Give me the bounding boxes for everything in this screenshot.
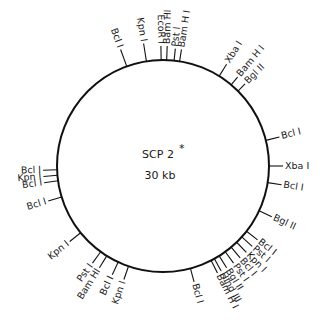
site-tick [99, 256, 106, 268]
site-tick [48, 197, 61, 201]
site-label: Bcl I [190, 282, 206, 304]
site-tick [231, 247, 240, 258]
site-label: Kpn I [135, 17, 150, 43]
site-label: Xba I [222, 39, 244, 65]
plasmid-circle [57, 60, 269, 272]
plasmid-size: 30 kb [145, 169, 176, 182]
site-tick [112, 262, 118, 275]
restriction-site: Kpn I [135, 17, 150, 62]
site-tick [225, 252, 233, 263]
plasmid-marker: * [179, 142, 185, 155]
restriction-site: Bcl I [266, 125, 302, 141]
site-label: Bcl I [25, 195, 48, 211]
site-label: Kpn I [45, 238, 71, 262]
site-label: Bam H I [175, 9, 192, 48]
site-label: Bgl II [272, 212, 298, 232]
site-tick [180, 49, 182, 61]
restriction-site: Bcl I [109, 26, 127, 66]
restriction-site: Xba I [269, 160, 309, 171]
site-tick [238, 84, 245, 91]
restriction-site: Bam H I [175, 9, 192, 61]
site-tick [43, 175, 57, 176]
site-tick [70, 233, 81, 242]
site-tick [190, 268, 194, 282]
site-label: Bcl I [109, 26, 126, 49]
site-tick [231, 77, 237, 85]
site-tick [121, 49, 127, 66]
site-tick [174, 49, 175, 61]
site-label: Bcl I [283, 179, 305, 193]
site-tick [219, 256, 226, 268]
restriction-site: Bcl I [25, 195, 62, 211]
plasmid-restriction-map: Bcl IKpn IEcoR IBam HIPst IBam H IXba IB… [0, 0, 320, 325]
restriction-site: Bcl I [190, 268, 206, 304]
site-tick [124, 266, 129, 279]
site-tick [242, 237, 252, 246]
restriction-site: Bgl II [259, 211, 298, 232]
restriction-site: Kpn I [45, 233, 80, 262]
plasmid-name: SCP 2 [142, 148, 174, 161]
site-tick [268, 183, 282, 185]
site-label: Bcl I [280, 125, 302, 141]
site-tick [144, 44, 147, 62]
restriction-site: Kpn I [109, 266, 128, 305]
site-tick [247, 231, 258, 240]
site-tick [266, 137, 280, 140]
site-tick [237, 242, 247, 252]
restriction-site: Bcl I [21, 164, 57, 176]
site-tick [44, 181, 58, 183]
site-tick [259, 211, 272, 217]
site-tick [92, 252, 100, 263]
restriction-site: Bcl I [268, 179, 305, 193]
site-label: Xba I [285, 160, 309, 171]
site-tick [219, 64, 226, 76]
site-label: Bcl I [21, 164, 42, 176]
